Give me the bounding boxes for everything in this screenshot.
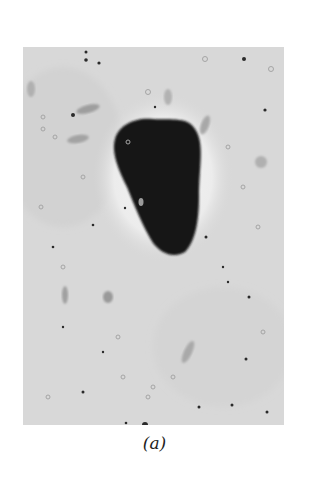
micrograph-svg	[23, 47, 284, 425]
figure-panel-label: (a)	[0, 433, 309, 453]
micrograph-image	[23, 47, 284, 425]
